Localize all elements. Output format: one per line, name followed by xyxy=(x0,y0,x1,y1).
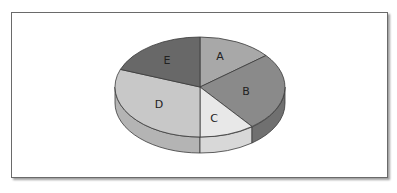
slice-label-d: D xyxy=(155,98,163,111)
pie-top xyxy=(115,37,285,137)
slice-label-c: C xyxy=(210,112,218,125)
slice-label-b: B xyxy=(242,85,250,98)
pie-chart: A B C D E xyxy=(0,0,397,193)
slice-label-a: A xyxy=(216,50,224,63)
slice-label-e: E xyxy=(164,54,171,67)
